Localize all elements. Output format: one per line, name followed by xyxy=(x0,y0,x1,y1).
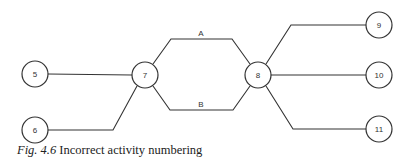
node-6: 6 xyxy=(22,117,48,143)
edge-label-a: A xyxy=(198,29,204,38)
node-9: 9 xyxy=(366,12,392,38)
edge-8-11 xyxy=(266,86,366,129)
figure-caption: Fig. 4.6 Incorrect activity numbering xyxy=(17,143,202,158)
network-diagram: A B 5 6 7 8 9 10 11 xyxy=(0,0,415,160)
node-10: 10 xyxy=(366,62,392,88)
edge-6-7 xyxy=(48,86,137,130)
svg-text:10: 10 xyxy=(375,71,384,80)
svg-text:9: 9 xyxy=(377,21,382,30)
figure-number: Fig. 4.6 xyxy=(17,143,56,157)
svg-text:5: 5 xyxy=(33,70,38,79)
node-7: 7 xyxy=(132,62,158,88)
node-8: 8 xyxy=(245,62,271,88)
node-11: 11 xyxy=(366,116,392,142)
edge-8-9 xyxy=(266,25,366,64)
caption-text: Incorrect activity numbering xyxy=(59,143,202,157)
edge-7-8-a xyxy=(153,39,250,64)
svg-text:6: 6 xyxy=(33,126,38,135)
edge-5-7 xyxy=(48,74,132,75)
node-5: 5 xyxy=(22,61,48,87)
svg-text:7: 7 xyxy=(143,71,148,80)
svg-text:8: 8 xyxy=(256,71,261,80)
edge-label-b: B xyxy=(198,100,203,109)
svg-text:11: 11 xyxy=(375,125,384,134)
